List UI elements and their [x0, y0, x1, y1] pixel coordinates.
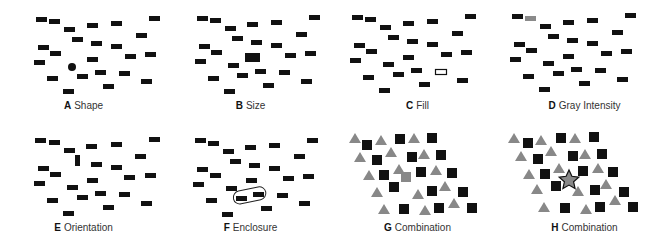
target-vertical-rect — [75, 155, 80, 166]
target-circle — [68, 63, 76, 71]
caption-g: GCombination — [334, 222, 501, 233]
combination-field-h — [501, 122, 668, 222]
caption-e: EOrientation — [0, 222, 167, 233]
target-large-rect — [245, 53, 260, 62]
target-gray-square — [401, 172, 411, 182]
enclosure-field — [167, 122, 334, 222]
panel-b-size: BSize — [167, 0, 334, 122]
caption-c: CFill — [334, 100, 501, 111]
panel-d-gray-intensity: DGray Intensity — [501, 0, 668, 122]
orientation-field — [0, 122, 167, 222]
caption-h: HCombination — [501, 222, 668, 233]
gray-field — [501, 0, 668, 100]
size-field — [167, 0, 334, 100]
caption-a: AShape — [0, 100, 167, 111]
caption-f: FEnclosure — [167, 222, 334, 233]
shape-field — [0, 0, 167, 100]
panel-e-orientation: EOrientation — [0, 122, 167, 244]
panel-f-enclosure: FEnclosure — [167, 122, 334, 244]
panel-h-combination: HCombination — [501, 122, 668, 244]
panel-g-combination: GCombination — [334, 122, 501, 244]
fill-field — [334, 0, 501, 100]
caption-d: DGray Intensity — [501, 100, 668, 111]
caption-b: BSize — [167, 100, 334, 111]
panel-c-fill: CFill — [334, 0, 501, 122]
combination-field-g — [334, 122, 501, 222]
target-gray-rect — [525, 16, 536, 21]
target-hollow-rect — [436, 70, 447, 75]
panel-a-shape: AShape — [0, 0, 167, 122]
